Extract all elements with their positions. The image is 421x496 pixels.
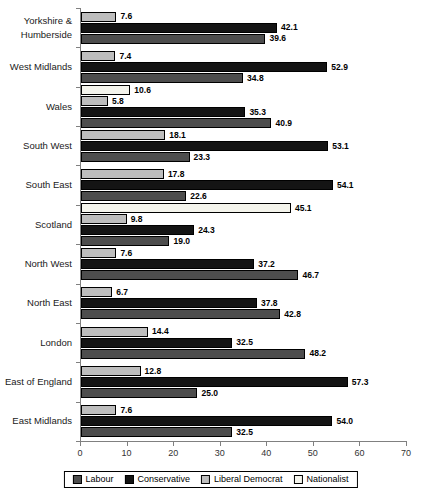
bar-row: 37.8: [81, 298, 407, 308]
bar-value-label: 39.6: [269, 34, 286, 43]
bar-row: 5.8: [81, 96, 407, 106]
bar-liberal-democrat: [81, 405, 116, 415]
bar-labour: [81, 34, 265, 44]
category-label: London: [0, 323, 72, 362]
bar-conservative: [81, 416, 332, 426]
bar-value-label: 37.2: [258, 260, 275, 269]
category-label: South West: [0, 126, 72, 165]
bar-liberal-democrat: [81, 214, 127, 224]
y-axis-tick: [76, 441, 80, 442]
x-axis-tick-label: 60: [344, 448, 374, 458]
bar-row: 34.8: [81, 73, 407, 83]
y-axis-tick: [76, 126, 80, 127]
legend-swatch-icon: [72, 475, 81, 484]
legend-label: Liberal Democrat: [214, 475, 283, 484]
bar-liberal-democrat: [81, 366, 141, 376]
bar-row: 25.0: [81, 388, 407, 398]
category-label: North West: [0, 244, 72, 283]
bar-row: 57.3: [81, 377, 407, 387]
bar-conservative: [81, 298, 257, 308]
x-axis-tick: [406, 442, 407, 446]
bar-group: 7.642.139.6: [81, 8, 407, 47]
legend-label: Nationalist: [307, 475, 349, 484]
x-axis-tick-label: 20: [158, 448, 188, 458]
bar-value-label: 57.3: [352, 378, 369, 387]
category-label: East Midlands: [0, 402, 72, 441]
x-axis-tick: [266, 442, 267, 446]
bar-value-label: 42.1: [281, 23, 298, 32]
bar-liberal-democrat: [81, 169, 164, 179]
bar-value-label: 54.0: [336, 417, 353, 426]
bar-conservative: [81, 259, 254, 269]
bar-value-label: 18.1: [169, 131, 186, 140]
bar-value-label: 53.1: [332, 142, 349, 151]
bar-row: 45.1: [81, 203, 407, 213]
x-axis-tick-label: 50: [298, 448, 328, 458]
legend: LabourConservativeLiberal DemocratNation…: [63, 471, 357, 488]
bar-labour: [81, 427, 232, 437]
x-axis-tick: [173, 442, 174, 446]
bar-row: 7.4: [81, 51, 407, 61]
bar-liberal-democrat: [81, 248, 116, 258]
bar-value-label: 24.3: [198, 226, 215, 235]
bar-row: 48.2: [81, 349, 407, 359]
bar-conservative: [81, 377, 348, 387]
legend-item-labour: Labour: [72, 475, 113, 484]
x-axis-tick: [359, 442, 360, 446]
bar-row: 9.8: [81, 214, 407, 224]
category-label: East of England: [0, 362, 72, 401]
y-axis-tick: [76, 205, 80, 206]
bar-row: 54.0: [81, 416, 407, 426]
bar-nationalist: [81, 85, 130, 95]
bar-value-label: 37.8: [261, 299, 278, 308]
bar-value-label: 32.5: [236, 338, 253, 347]
bar-row: 46.7: [81, 270, 407, 280]
legend-item-nationalist: Nationalist: [294, 475, 349, 484]
bar-value-label: 45.1: [295, 204, 312, 213]
bar-group: 7.452.934.8: [81, 47, 407, 86]
bar-liberal-democrat: [81, 51, 115, 61]
category-label: Scotland: [0, 205, 72, 244]
bar-row: 7.6: [81, 12, 407, 22]
bar-group: 12.857.325.0: [81, 362, 407, 401]
bar-liberal-democrat: [81, 12, 116, 22]
category-label: Yorkshire & Humberside: [0, 8, 72, 47]
bar-row: 6.7: [81, 287, 407, 297]
legend-label: Labour: [85, 475, 113, 484]
bar-liberal-democrat: [81, 130, 165, 140]
bar-row: 37.2: [81, 259, 407, 269]
bar-row: 10.6: [81, 85, 407, 95]
bar-labour: [81, 349, 305, 359]
x-axis-tick-label: 30: [205, 448, 235, 458]
bar-value-label: 54.1: [337, 181, 354, 190]
bar-value-label: 48.2: [309, 349, 326, 358]
bar-row: 53.1: [81, 141, 407, 151]
y-axis-tick: [76, 323, 80, 324]
bar-row: 24.3: [81, 225, 407, 235]
legend-swatch-icon: [294, 475, 303, 484]
x-axis-tick: [127, 442, 128, 446]
bar-liberal-democrat: [81, 327, 148, 337]
bar-conservative: [81, 141, 328, 151]
bar-value-label: 6.7: [116, 288, 128, 297]
bar-conservative: [81, 107, 245, 117]
x-axis-tick-label: 70: [391, 448, 421, 458]
bar-row: 39.6: [81, 34, 407, 44]
bar-row: 32.5: [81, 338, 407, 348]
bar-conservative: [81, 338, 232, 348]
bar-value-label: 34.8: [247, 74, 264, 83]
category-label: Wales: [0, 87, 72, 126]
bar-row: 17.8: [81, 169, 407, 179]
bar-group: 6.737.842.8: [81, 284, 407, 323]
bar-conservative: [81, 23, 277, 33]
y-axis-tick: [76, 165, 80, 166]
bar-row: 42.8: [81, 309, 407, 319]
bar-row: 7.6: [81, 248, 407, 258]
bar-value-label: 42.8: [284, 310, 301, 319]
y-axis-tick: [76, 284, 80, 285]
plot-area: 7.642.139.67.452.934.810.65.835.340.918.…: [80, 8, 407, 442]
category-label: North East: [0, 284, 72, 323]
bar-row: 7.6: [81, 405, 407, 415]
bar-group: 7.637.246.7: [81, 244, 407, 283]
y-axis-tick: [76, 362, 80, 363]
